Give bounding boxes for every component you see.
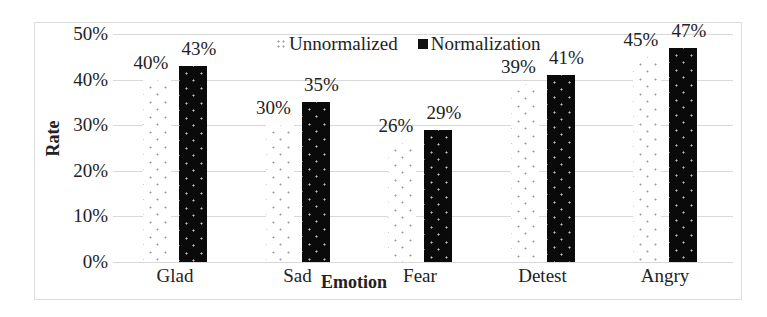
x-tick-label: Angry xyxy=(615,265,715,287)
y-tick-label: 50% xyxy=(60,24,108,43)
y-tick-label: 20% xyxy=(60,161,108,180)
data-label: 26% xyxy=(371,116,421,135)
legend-label-unnormalized: Unnormalized xyxy=(289,34,398,53)
data-label: 45% xyxy=(616,30,666,49)
legend-label-normalization: Normalization xyxy=(431,34,541,53)
y-tick-label: 10% xyxy=(60,206,108,225)
bar-normalization-glad xyxy=(179,66,207,262)
legend: Unnormalized Normalization xyxy=(276,34,540,53)
bar-normalization-angry xyxy=(669,48,697,262)
y-tick-label: 0% xyxy=(60,252,108,271)
data-label: 41% xyxy=(542,48,592,67)
y-tick-label: 40% xyxy=(60,70,108,89)
data-label: 43% xyxy=(174,39,224,58)
data-label: 40% xyxy=(126,53,176,72)
y-axis-label: Rate xyxy=(43,114,64,164)
bar-normalization-sad xyxy=(302,102,330,262)
x-tick-label: Detest xyxy=(493,265,593,287)
legend-swatch-normalization xyxy=(418,39,428,49)
bar-unnormalized-glad xyxy=(143,80,171,262)
x-tick-label: Glad xyxy=(125,265,225,287)
x-tick-label: Fear xyxy=(370,265,470,287)
bar-unnormalized-detest xyxy=(511,84,539,262)
bar-unnormalized-angry xyxy=(633,57,661,262)
data-label: 35% xyxy=(297,75,347,94)
bar-unnormalized-fear xyxy=(388,143,416,262)
legend-swatch-unnormalized xyxy=(276,39,286,49)
legend-item-normalization: Normalization xyxy=(418,34,541,53)
data-label: 29% xyxy=(419,103,469,122)
gridline xyxy=(113,262,733,263)
x-tick-label: Sad xyxy=(248,265,348,287)
data-label: 39% xyxy=(494,57,544,76)
legend-item-unnormalized: Unnormalized xyxy=(276,34,398,53)
bar-unnormalized-sad xyxy=(266,125,294,262)
data-label: 47% xyxy=(664,21,714,40)
data-label: 30% xyxy=(249,98,299,117)
bar-normalization-fear xyxy=(424,130,452,262)
y-tick-label: 30% xyxy=(60,115,108,134)
bar-normalization-detest xyxy=(547,75,575,262)
